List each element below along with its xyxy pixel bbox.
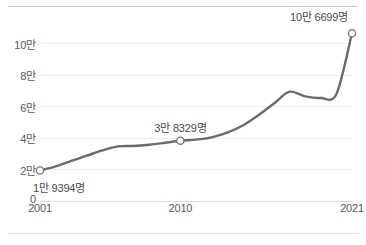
point-label-2010: 3만 8329명: [154, 119, 206, 135]
x-axis-tick-label: 2001: [28, 202, 52, 214]
series-line: [40, 33, 352, 170]
x-axis-tick-label: 2021: [340, 202, 364, 214]
data-point-marker: [348, 30, 355, 37]
data-point-marker: [36, 167, 43, 174]
markers-layer: [36, 30, 355, 175]
point-label-2021: 10만 6699명: [290, 8, 348, 24]
x-axis-tick-label: 2010: [169, 202, 193, 214]
series-layer: [40, 33, 352, 170]
point-label-2001: 1만 9394명: [33, 179, 85, 195]
line-chart: 02만4만6만8만10만 200120102021 1만 9394명3만 832…: [0, 0, 366, 245]
data-point-marker: [177, 137, 184, 144]
x-axis: 200120102021: [0, 202, 366, 222]
